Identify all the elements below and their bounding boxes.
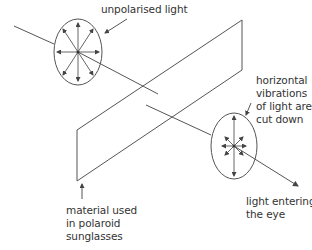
label-unpolarised-light: unpolarised light [101,3,188,16]
label-polaroid-material: material used in polaroid sunglasses [66,204,137,243]
label-horizontal-vibrations: horizontal vibrations of light are cut d… [256,74,312,126]
light-ray-through [78,52,158,94]
polarised-vibrations-icon [211,113,257,179]
label-light-entering-eye: light entering the eye [246,195,312,221]
unpolarised-vibrations-icon [54,19,102,85]
light-ray-after-panel [146,105,211,135]
unpolarised-pointer-arrow [105,19,127,33]
light-ray-incoming [14,26,54,44]
light-ray-outgoing [234,146,298,186]
horizontal-pointer-arrow [246,103,251,115]
